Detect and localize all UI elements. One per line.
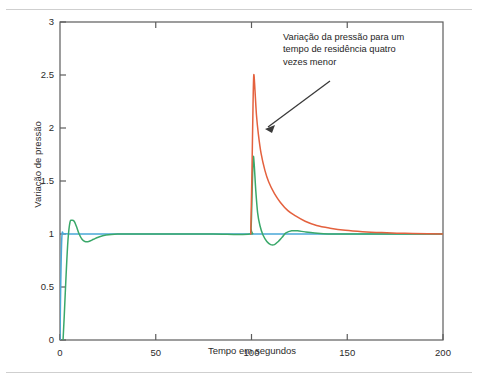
x-tick-label: 150 — [327, 347, 367, 358]
y-tick-label: 1.5 — [20, 175, 54, 186]
annotation-line-2: tempo de residência quatro — [283, 43, 433, 55]
divider-bottom — [6, 372, 472, 373]
y-axis-label: Variação de pressão — [32, 95, 43, 235]
clipped-header-text — [0, 0, 478, 8]
chart-annotation: Variação da pressão para um tempo de res… — [283, 31, 433, 68]
y-tick-label: 0.5 — [20, 281, 54, 292]
y-tick-label: 1 — [20, 228, 54, 239]
annotation-line-1: Variação da pressão para um — [283, 31, 433, 43]
x-tick-label: 200 — [423, 347, 463, 358]
chart-figure: Variação de pressão Tempo em segundos 00… — [0, 9, 478, 372]
y-tick-label: 3 — [20, 16, 54, 27]
figure-page: Variação de pressão Tempo em segundos 00… — [0, 0, 478, 385]
y-tick-label: 2 — [20, 122, 54, 133]
y-tick-label: 2.5 — [20, 69, 54, 80]
y-tick-label: 0 — [20, 334, 54, 345]
x-tick-label: 0 — [40, 347, 80, 358]
x-tick-label: 100 — [232, 347, 272, 358]
annotation-line-3: vezes menor — [283, 56, 433, 68]
x-tick-label: 50 — [136, 347, 176, 358]
